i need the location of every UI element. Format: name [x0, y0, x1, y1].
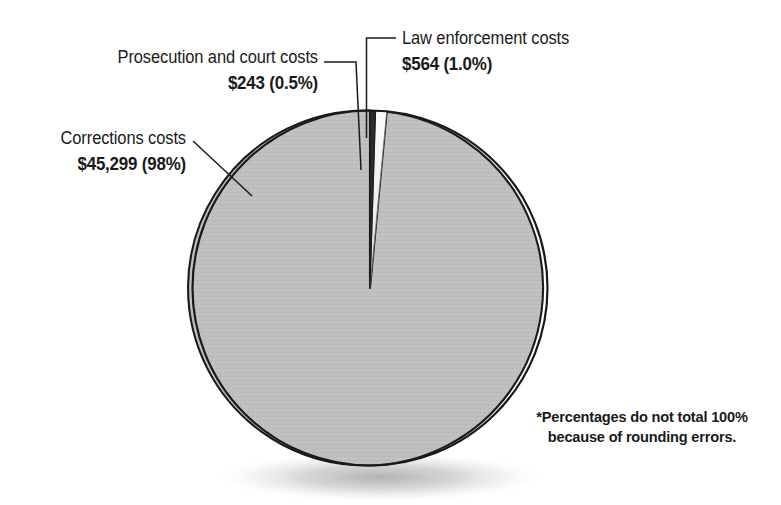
callout-law-enforcement-value: $564 (1.0%): [402, 54, 569, 74]
callout-law-enforcement-label: Law enforcement costs: [402, 29, 569, 49]
callout-corrections-label: Corrections costs: [11, 129, 186, 149]
callout-prosecution: Prosecution and court costs $243 (0.5%): [60, 48, 318, 93]
callout-corrections: Corrections costs $45,299 (98%): [0, 129, 186, 174]
callout-corrections-value: $45,299 (98%): [11, 154, 186, 174]
pie-chart-figure: Prosecution and court costs $243 (0.5%) …: [0, 0, 781, 505]
chart-footnote-line-2: because of rounding errors.: [527, 427, 756, 447]
callout-prosecution-value: $243 (0.5%): [75, 73, 318, 93]
pie-slice-corrections[interactable]: [188, 110, 543, 465]
callout-law-enforcement: Law enforcement costs $564 (1.0%): [402, 29, 580, 74]
chart-footnote-line-1: *Percentages do not total 100%: [527, 407, 756, 427]
callout-prosecution-label: Prosecution and court costs: [75, 48, 318, 68]
chart-footnote: *Percentages do not total 100% because o…: [520, 407, 764, 447]
